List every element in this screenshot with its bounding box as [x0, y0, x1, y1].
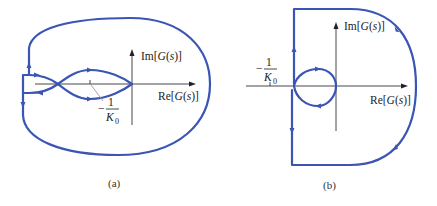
panel-a: − 1 K 0 Im[G(s)] Re[G(s)] (a) [21, 18, 211, 190]
panel-b-arrow-icon [290, 128, 295, 134]
panel-b-caption: (b) [323, 179, 336, 192]
panel-a-arrow-icon [21, 102, 26, 108]
panel-a-imag-axis-arrowhead-icon [130, 49, 135, 56]
panel-a-outer-contour [23, 18, 210, 155]
panel-b: − 1 K 0 Im[G(s)] Re[G(s)] (b) [246, 9, 416, 192]
nyquist-diagrams: − 1 K 0 Im[G(s)] Re[G(s)] (a) [0, 0, 437, 206]
svg-text:1: 1 [266, 56, 272, 68]
svg-text:−: − [256, 62, 263, 74]
panel-b-arrow-icon [315, 104, 321, 109]
panel-a-indentation-detour [23, 65, 29, 103]
svg-text:0: 0 [115, 117, 119, 126]
panel-a-critical-point-label: − 1 K 0 [98, 96, 119, 126]
panel-b-imag-axis-label: Im[G(s)] [344, 20, 385, 33]
panel-b-inner-loop [294, 69, 336, 106]
panel-b-imag-axis-arrowhead-icon [334, 22, 339, 29]
panel-b-arrow-icon [315, 67, 321, 72]
svg-text:1: 1 [108, 96, 114, 108]
panel-a-inner-lobes [29, 70, 132, 99]
svg-text:K: K [105, 111, 115, 123]
panel-a-arrow-icon [87, 97, 93, 102]
panel-a-real-axis-arrowhead-icon [189, 82, 196, 87]
panel-b-arrow-icon [292, 46, 297, 52]
panel-a-crossing-point [56, 82, 59, 85]
svg-text:−: − [98, 102, 105, 114]
panel-a-caption: (a) [108, 177, 121, 190]
panel-a-arrow-icon [27, 62, 32, 68]
svg-text:0: 0 [273, 77, 277, 86]
panel-a-imag-axis-label: Im[G(s)] [141, 50, 182, 63]
panel-b-outer-contour [292, 9, 416, 165]
panel-b-real-axis-arrowhead-icon [401, 84, 408, 89]
panel-b-real-axis-label: Re[G(s)] [370, 94, 411, 107]
panel-a-arrow-icon [87, 68, 93, 73]
svg-text:K: K [263, 71, 273, 83]
panel-b-critical-point-label: − 1 K 0 [256, 56, 277, 86]
panel-a-real-axis-label: Re[G(s)] [158, 90, 199, 103]
